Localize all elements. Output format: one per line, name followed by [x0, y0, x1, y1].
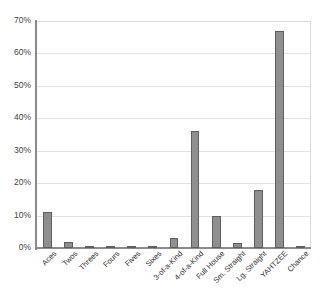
bar[interactable] [64, 242, 73, 248]
bar-slot [227, 21, 248, 248]
bar[interactable] [170, 238, 179, 248]
y-axis-tick-label: 40% [0, 113, 31, 122]
y-axis-tick-label: 60% [0, 48, 31, 57]
y-axis-tick-label: 30% [0, 146, 31, 155]
y-axis-tick-label: 0% [0, 243, 31, 252]
bar-series [37, 21, 311, 248]
y-axis-tick-label: 20% [0, 178, 31, 187]
bar-slot [142, 21, 163, 248]
bar[interactable] [233, 243, 242, 248]
bar[interactable] [191, 131, 200, 248]
bar-slot [248, 21, 269, 248]
bar[interactable] [212, 216, 221, 248]
y-axis-tick-labels: 0%10%20%30%40%50%60%70% [0, 0, 34, 303]
x-axis-tick-label: Aces [40, 249, 58, 267]
bar[interactable] [85, 246, 94, 248]
y-axis-tick-label: 70% [0, 16, 31, 25]
y-axis-tick-label: 50% [0, 81, 31, 90]
bar-slot [163, 21, 184, 248]
bar-slot [290, 21, 311, 248]
bar[interactable] [148, 246, 157, 248]
bar-slot [121, 21, 142, 248]
bar-slot [269, 21, 290, 248]
x-axis-tick-label: Fives [123, 249, 142, 268]
bar-slot [185, 21, 206, 248]
x-axis-tick-label: Threes [77, 249, 100, 272]
y-axis-tick-label: 10% [0, 211, 31, 220]
bar[interactable] [127, 246, 136, 248]
bar-slot [100, 21, 121, 248]
bar[interactable] [254, 190, 263, 248]
x-axis-tick-label: Fours [101, 249, 121, 269]
bar[interactable] [275, 31, 284, 248]
bar-slot [58, 21, 79, 248]
bar-slot [79, 21, 100, 248]
bar-slot [206, 21, 227, 248]
bar[interactable] [43, 212, 52, 248]
bar-slot [37, 21, 58, 248]
bar[interactable] [106, 246, 115, 248]
bar-chart: 0%10%20%30%40%50%60%70% AcesTwosThreesFo… [0, 0, 330, 303]
x-axis-tick-label: Chance [286, 249, 311, 274]
x-axis-tick-labels: AcesTwosThreesFoursFivesSixes3-of-a-Kind… [37, 249, 311, 303]
